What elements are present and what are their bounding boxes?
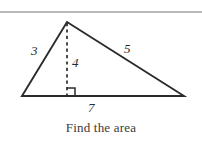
triangle-outline — [22, 22, 184, 96]
label-base: 7 — [88, 101, 95, 114]
right-angle-marker-icon — [67, 88, 75, 96]
triangle-diagram — [0, 0, 202, 120]
figure-page: 3 4 5 7 Find the area — [0, 0, 202, 143]
label-left-side: 3 — [31, 44, 38, 57]
label-right-side: 5 — [124, 42, 131, 55]
triangle-path — [22, 22, 184, 96]
figure-caption: Find the area — [0, 120, 202, 136]
label-altitude: 4 — [72, 56, 79, 69]
